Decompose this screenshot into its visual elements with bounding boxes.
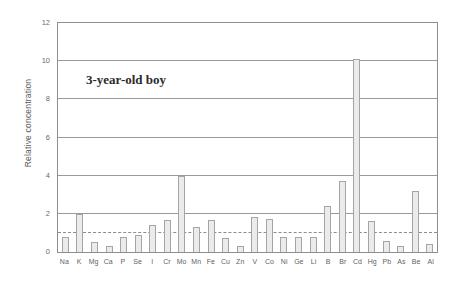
bar-slot bbox=[422, 23, 437, 252]
x-axis-tick-label: Ni bbox=[277, 258, 292, 265]
plot-area bbox=[57, 22, 438, 253]
bar-cd bbox=[353, 59, 360, 252]
x-axis-tick-label: Se bbox=[130, 258, 145, 265]
bar-mn bbox=[193, 227, 200, 252]
x-axis-tick-label: Be bbox=[409, 258, 424, 265]
x-axis-tick-label: Zn bbox=[233, 258, 248, 265]
x-axis-tick-label: Mn bbox=[189, 258, 204, 265]
bar-ge bbox=[295, 237, 302, 252]
bars-container bbox=[58, 23, 437, 252]
bar-slot bbox=[102, 23, 117, 252]
x-axis-tick-label: Na bbox=[57, 258, 72, 265]
x-axis-tick-label: As bbox=[394, 258, 409, 265]
bar-slot bbox=[116, 23, 131, 252]
x-axis-tick-label: Hg bbox=[365, 258, 380, 265]
x-axis-tick-label: K bbox=[72, 258, 87, 265]
x-axis-tick-label: P bbox=[116, 258, 131, 265]
y-axis-tick-label: 6 bbox=[20, 132, 50, 141]
x-axis-tick-label: Cd bbox=[350, 258, 365, 265]
x-axis-tick-label: Li bbox=[306, 258, 321, 265]
y-axis-tick-label: 10 bbox=[20, 56, 50, 65]
bar-be bbox=[412, 191, 419, 252]
x-axis-tick-label: Fe bbox=[204, 258, 219, 265]
bar-ca bbox=[106, 246, 113, 252]
x-axis-tick-labels: NaKMgCaPSeICrMoMnFeCuZnVCoNiGeLiBBrCdHgP… bbox=[57, 258, 438, 265]
bar-slot bbox=[248, 23, 263, 252]
relative-concentration-bar-chart: Relative concentration 024681012 NaKMgCa… bbox=[0, 0, 460, 302]
bar-al bbox=[426, 244, 433, 252]
x-axis-tick-label: Mg bbox=[86, 258, 101, 265]
bar-slot bbox=[306, 23, 321, 252]
bar-pb bbox=[383, 241, 390, 252]
bar-slot bbox=[277, 23, 292, 252]
bar-mo bbox=[178, 176, 185, 252]
x-axis-tick-label: Ge bbox=[292, 258, 307, 265]
y-axis-tick-label: 2 bbox=[20, 208, 50, 217]
y-axis-tick-label: 12 bbox=[20, 18, 50, 27]
bar-as bbox=[397, 246, 404, 252]
bar-li bbox=[310, 237, 317, 252]
x-axis-tick-label: Cr bbox=[160, 258, 175, 265]
bar-b bbox=[324, 206, 331, 252]
x-axis-tick-label: I bbox=[145, 258, 160, 265]
bar-p bbox=[120, 237, 127, 252]
bar-slot bbox=[73, 23, 88, 252]
y-axis-tick-label: 4 bbox=[20, 170, 50, 179]
chart-annotation-label: 3-year-old boy bbox=[86, 72, 166, 88]
bar-br bbox=[339, 181, 346, 252]
bar-cu bbox=[222, 238, 229, 252]
bar-slot bbox=[204, 23, 219, 252]
bar-co bbox=[266, 219, 273, 252]
x-axis-tick-label: Pb bbox=[379, 258, 394, 265]
bar-mg bbox=[91, 242, 98, 252]
y-axis-tick-label: 0 bbox=[20, 247, 50, 256]
bar-slot bbox=[262, 23, 277, 252]
bar-slot bbox=[145, 23, 160, 252]
x-axis-tick-label: Cu bbox=[218, 258, 233, 265]
bar-k bbox=[76, 214, 83, 252]
bar-slot bbox=[131, 23, 146, 252]
x-axis-tick-label: V bbox=[248, 258, 263, 265]
bar-fe bbox=[208, 220, 215, 252]
bar-slot bbox=[87, 23, 102, 252]
bar-slot bbox=[335, 23, 350, 252]
bar-ni bbox=[280, 237, 287, 252]
bar-slot bbox=[364, 23, 379, 252]
x-axis-tick-label: Mo bbox=[174, 258, 189, 265]
bar-slot bbox=[393, 23, 408, 252]
bar-slot bbox=[58, 23, 73, 252]
bar-na bbox=[62, 237, 69, 252]
bar-slot bbox=[320, 23, 335, 252]
bar-cr bbox=[164, 220, 171, 252]
bar-v bbox=[251, 217, 258, 252]
y-axis-tick-label: 8 bbox=[20, 94, 50, 103]
bar-slot bbox=[233, 23, 248, 252]
bar-slot bbox=[408, 23, 423, 252]
x-axis-tick-label: Ca bbox=[101, 258, 116, 265]
bar-slot bbox=[379, 23, 394, 252]
bar-i bbox=[149, 225, 156, 252]
bar-slot bbox=[350, 23, 365, 252]
bar-zn bbox=[237, 246, 244, 252]
x-axis-tick-label: B bbox=[321, 258, 336, 265]
bar-hg bbox=[368, 221, 375, 252]
bar-slot bbox=[291, 23, 306, 252]
bar-slot bbox=[175, 23, 190, 252]
bar-slot bbox=[160, 23, 175, 252]
x-axis-tick-label: Co bbox=[262, 258, 277, 265]
bar-slot bbox=[189, 23, 204, 252]
bar-slot bbox=[218, 23, 233, 252]
x-axis-tick-label: Br bbox=[335, 258, 350, 265]
bar-se bbox=[135, 235, 142, 252]
x-axis-tick-label: Al bbox=[423, 258, 438, 265]
